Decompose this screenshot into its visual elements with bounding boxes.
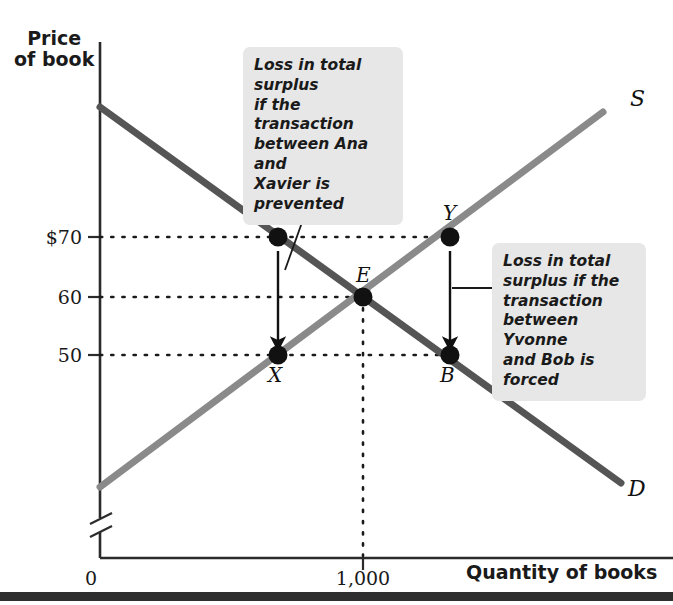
y-axis-title: Price of book [14,28,94,71]
data-point-A [269,228,288,247]
y-tick-label-70: $70 [14,226,82,248]
y-tick-label-50: 50 [14,344,82,366]
callout-yvonne-bob: Loss in total surplus if the transaction… [492,243,646,401]
supply-demand-figure: Price of book Quantity of books $70 60 5… [0,0,673,605]
y-tick-label-60: 60 [14,286,82,308]
point-label-Y: Y [443,201,456,225]
x-axis-title: Quantity of books [466,562,657,583]
x-tick-label-1000: 1,000 [323,567,403,589]
page-bottom-band [0,592,673,601]
data-point-E [354,288,373,307]
callout-ana-xavier: Loss in total surplus if the transaction… [243,47,403,225]
origin-label: 0 [76,567,106,589]
demand-curve-label: D [628,476,646,501]
data-point-X [269,346,288,365]
data-point-Y [441,228,460,247]
point-label-B: B [440,363,455,387]
point-label-E: E [356,263,371,287]
supply-curve-label: S [630,86,645,111]
data-point-B [441,346,460,365]
point-label-X: X [268,363,282,387]
